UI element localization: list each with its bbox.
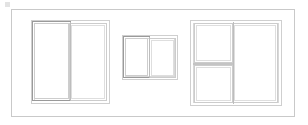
window-middle-operable-sash-glass xyxy=(125,38,148,76)
window-right-upper-left-panel[interactable] xyxy=(194,23,233,63)
window-middle-mullion xyxy=(149,37,150,78)
window-left-operable-sash[interactable] xyxy=(32,21,71,101)
window-middle-fixed-panel[interactable] xyxy=(149,38,176,78)
window-left-fixed-panel[interactable] xyxy=(69,23,107,101)
drawing-canvas xyxy=(0,0,308,125)
window-middle-fixed-panel-glass xyxy=(151,40,174,76)
window-right-upper-left-panel-glass xyxy=(196,25,231,61)
window-right-lower-left-panel-glass xyxy=(196,67,231,101)
window-right-mullion xyxy=(233,22,234,104)
window-elevation-middle[interactable] xyxy=(122,35,178,80)
window-right-lower-left-panel[interactable] xyxy=(194,65,233,103)
window-elevation-right[interactable] xyxy=(190,20,282,106)
sheet-border xyxy=(11,9,295,117)
window-left-fixed-panel-glass xyxy=(71,25,105,99)
window-left-mullion xyxy=(70,22,71,101)
sheet-corner-mark-icon xyxy=(5,2,10,7)
window-right-transom-rail xyxy=(193,63,233,65)
window-right-fixed-panel[interactable] xyxy=(232,23,278,103)
window-elevation-left[interactable] xyxy=(31,20,110,104)
window-left-operable-sash-glass xyxy=(34,23,69,99)
window-right-fixed-panel-glass xyxy=(234,25,276,101)
window-middle-operable-sash[interactable] xyxy=(123,36,150,78)
